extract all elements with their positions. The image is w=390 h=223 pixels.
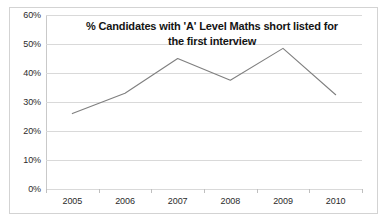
y-axis-tick-labels: 0%10%20%30%40%50%60% (10, 8, 41, 214)
x-tick-label: 2007 (168, 196, 188, 206)
chart-title-line-1: % Candidates with 'A' Level Maths short … (86, 20, 338, 32)
x-tick-label: 2006 (115, 196, 135, 206)
x-tick-mark (362, 189, 363, 193)
y-tick-label: 20% (9, 127, 41, 136)
y-tick-label: 40% (9, 69, 41, 78)
chart-title: % Candidates with 'A' Level Maths short … (62, 19, 362, 49)
y-tick-label: 0% (9, 185, 41, 194)
y-tick-label: 60% (9, 11, 41, 20)
x-tick-mark (309, 189, 310, 193)
x-tick-mark (204, 189, 205, 193)
chart-title-line-2: the first interview (168, 35, 256, 47)
x-tick-label: 2005 (63, 196, 83, 206)
y-tick-label: 30% (9, 98, 41, 107)
y-tick-label: 50% (9, 40, 41, 49)
x-tick-mark (99, 189, 100, 193)
x-tick-mark (257, 189, 258, 193)
x-tick-label: 2010 (326, 196, 346, 206)
y-tick-label: 10% (9, 156, 41, 165)
x-tick-mark (46, 189, 47, 193)
chart-frame: 0%10%20%30%40%50%60% 2005200620072008200… (9, 7, 378, 214)
x-tick-label: 2009 (273, 196, 293, 206)
x-tick-mark (151, 189, 152, 193)
x-tick-label: 2008 (221, 196, 241, 206)
series-polyline (72, 48, 335, 113)
